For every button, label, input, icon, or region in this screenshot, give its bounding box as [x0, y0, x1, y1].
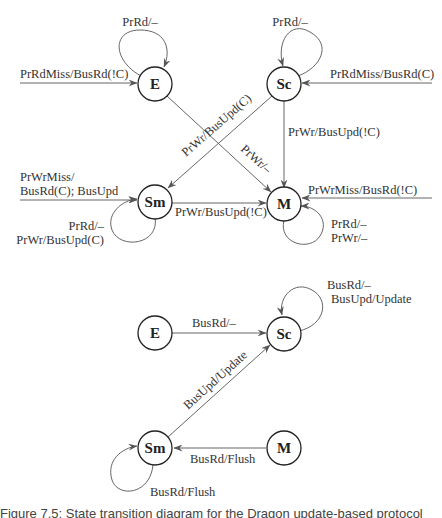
state-node-sc: Sc — [267, 67, 301, 101]
figure-caption: Figure 7.5: State transition diagram for… — [0, 506, 442, 518]
svg-text:M: M — [277, 196, 291, 212]
edge-sc-to-sm — [168, 96, 272, 188]
label-into-m: PrWrMiss/BusRd(!C) — [308, 183, 417, 197]
label-sc-to-m: PrWr/BusUpd(!C) — [288, 125, 380, 139]
bus-state-node-sc: Sc — [267, 317, 301, 351]
label-into-sm-line1: PrWrMiss/ — [20, 170, 75, 184]
label-into-sc: PrRdMiss/BusRd(C) — [330, 67, 434, 81]
state-node-m: M — [267, 187, 301, 221]
state-node-e: E — [138, 67, 172, 101]
label-m-self-line2: PrWr/– — [331, 231, 368, 245]
label-e-self: PrRd/– — [122, 15, 158, 29]
svg-text:E: E — [150, 76, 160, 92]
svg-text:M: M — [277, 440, 291, 456]
svg-text:Sc: Sc — [277, 326, 292, 342]
label-into-sm-line2: BusRd(C); BusUpd — [20, 184, 119, 198]
label-into-e: PrRdMiss/BusRd(!C) — [20, 67, 128, 81]
svg-text:Sm: Sm — [145, 440, 166, 456]
label-bus-sm-self: BusRd/Flush — [150, 485, 216, 499]
bus-state-node-m: M — [267, 431, 301, 465]
state-node-sm: Sm — [138, 185, 172, 219]
state-diagram-canvas: PrRd/– PrRdMiss/BusRd(!C) PrRd/– PrRdMis… — [0, 0, 442, 518]
bottom-diagram: BusRd/– BusRd/– BusUpd/Update BusUpd/Upd… — [111, 278, 412, 499]
label-bus-sc-self-line1: BusRd/– — [327, 278, 372, 292]
label-bus-sc-self-line2: BusUpd/Update — [331, 292, 412, 306]
bus-state-node-e: E — [138, 316, 172, 350]
label-sm-self-line2: PrWr/BusUpd(C) — [16, 233, 104, 247]
svg-text:E: E — [150, 325, 160, 341]
edge-bus-sm-to-sc — [168, 345, 270, 437]
bus-state-node-sm: Sm — [138, 431, 172, 465]
label-sm-self-line1: PrRd/– — [69, 219, 105, 233]
top-diagram: PrRd/– PrRdMiss/BusRd(!C) PrRd/– PrRdMis… — [16, 15, 434, 247]
svg-text:Sm: Sm — [145, 194, 166, 210]
label-sc-self: PrRd/– — [272, 15, 308, 29]
label-sm-to-m: PrWr/BusUpd(!C) — [175, 205, 267, 219]
label-bus-sm-to-sc: BusUpd/Update — [181, 348, 251, 413]
label-m-self-line1: PrRd/– — [331, 217, 367, 231]
label-bus-e-to-sc: BusRd/– — [192, 316, 237, 330]
label-e-to-m: PrWr/– — [238, 142, 275, 177]
svg-text:Sc: Sc — [277, 76, 292, 92]
label-bus-m-to-sm: BusRd/Flush — [190, 452, 256, 466]
